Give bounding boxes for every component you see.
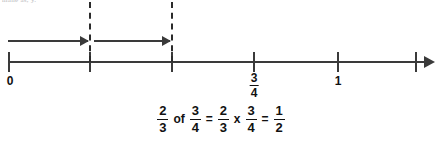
fraction-denominator: 2 <box>275 121 282 135</box>
fraction-numerator: 1 <box>275 104 282 118</box>
tick-label-three-quarters-numerator: 3 <box>250 72 259 84</box>
equation-operator-equals-first: = <box>206 112 213 126</box>
tick-label-one: 1 <box>335 74 342 88</box>
fraction-numerator: 3 <box>192 104 199 118</box>
hop-arrow-one <box>8 40 88 42</box>
fraction-numerator: 3 <box>247 104 254 118</box>
tick-label-three-quarters: 3 4 <box>250 72 259 99</box>
hop-arrow-two <box>94 40 170 42</box>
tick-1 <box>337 52 339 72</box>
equation-fraction-three-quarters-second: 3 4 <box>246 104 257 135</box>
fraction-numerator: 2 <box>159 104 166 118</box>
fraction-denominator: 4 <box>192 121 199 135</box>
number-line-axis <box>8 61 428 63</box>
fraction-denominator: 4 <box>247 121 254 135</box>
tick-label-0: 0 <box>7 74 14 88</box>
equation-fraction-two-thirds: 2 3 <box>157 104 168 135</box>
number-line: 0 3 4 1 <box>0 0 442 100</box>
fraction-numerator: 2 <box>220 104 227 118</box>
fraction-denominator: 3 <box>220 121 227 135</box>
axis-arrow-icon <box>424 56 435 68</box>
equation-fraction-three-quarters-first: 3 4 <box>190 104 201 135</box>
equation-fraction-two-thirds-second: 2 3 <box>218 104 229 135</box>
tick-3-4 <box>253 52 255 72</box>
equation-operator-equals-second: = <box>262 112 269 126</box>
tick-label-three-quarters-denominator: 4 <box>250 87 259 99</box>
equation-operator-of: of <box>173 112 184 126</box>
equation: 2 3 of 3 4 = 2 3 x 3 4 = 1 2 <box>0 104 442 135</box>
dashed-guide-half <box>171 2 173 62</box>
number-line-diagram: mane as, y. 0 3 4 1 2 3 of <box>0 0 442 143</box>
equation-fraction-one-half: 1 2 <box>274 104 285 135</box>
fraction-denominator: 3 <box>159 121 166 135</box>
equation-operator-multiply: x <box>234 112 241 126</box>
dashed-guide-quarter <box>89 2 91 62</box>
tick-5-4 <box>415 52 417 72</box>
tick-0 <box>8 52 10 72</box>
